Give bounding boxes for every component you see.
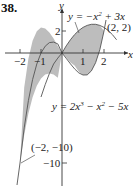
- point-leader-line: [21, 155, 35, 163]
- tick-label-2: 2: [101, 55, 107, 67]
- graph: −2 −1 1 2 2 −10 y x y = −x2 + 3x (2, 2) …: [0, 0, 133, 186]
- tick-label-neg1: −1: [34, 55, 46, 67]
- point-label-neg2-neg10: (−2, −10): [31, 141, 73, 154]
- ytick-label-neg10: −10: [43, 157, 61, 169]
- x-axis-label: x: [127, 48, 133, 60]
- y-axis-label: y: [58, 0, 64, 11]
- tick-label-1: 1: [80, 55, 86, 67]
- tick-label-neg2: −2: [14, 55, 26, 67]
- parabola-leader-line: [75, 22, 79, 33]
- ytick-label-2: 2: [55, 25, 61, 37]
- cubic-label: y = 2x3 − x2 − 5x: [51, 100, 128, 112]
- point-label-2-2: (2, 2): [107, 21, 131, 34]
